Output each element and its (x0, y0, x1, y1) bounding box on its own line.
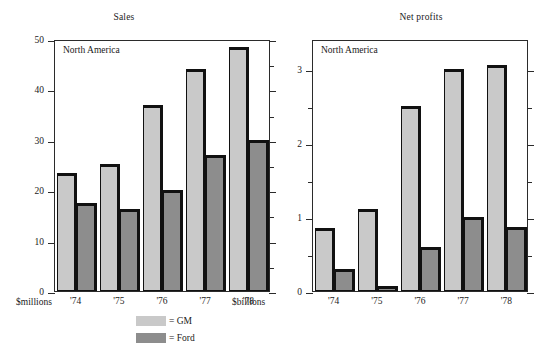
x-tick-label: '75 (355, 296, 398, 306)
chart-title-net-profits: Net profits (286, 12, 546, 22)
y-tick-label: 50 (35, 35, 45, 45)
y-tick-major (269, 293, 276, 294)
x-tick-label: '77 (442, 296, 485, 306)
bar-group (141, 41, 184, 291)
bar-gm-78 (487, 65, 507, 291)
y-tick-major (48, 293, 55, 294)
panel-net-profits: Net profits North America 0123 '74'75'76… (276, 0, 546, 359)
y-tick-minor (308, 108, 313, 109)
legend-swatch-gm (136, 316, 166, 326)
bar-group (55, 41, 98, 291)
bar-ford-78 (249, 140, 269, 291)
bar-ford-77 (464, 217, 484, 291)
bars-container-net-profits (313, 41, 527, 291)
y-tick-label: 1 (297, 213, 302, 223)
y-tick-minor (269, 117, 274, 118)
x-tick-label: '74 (54, 296, 97, 306)
bar-group (443, 41, 486, 291)
legend: = GM = Ford (136, 313, 195, 347)
y-tick-major (269, 142, 276, 143)
y-tick-major (527, 145, 534, 146)
bar-gm-74 (57, 173, 77, 291)
bar-group (486, 41, 529, 291)
x-tick-label: '77 (184, 296, 227, 306)
y-tick-label: 2 (297, 139, 302, 149)
y-tick-major (269, 243, 276, 244)
y-tick-major (48, 142, 55, 143)
bar-gm-76 (401, 106, 421, 291)
y-tick-major (269, 192, 276, 193)
y-tick-major (527, 71, 534, 72)
legend-label-gm: = GM (169, 316, 192, 326)
unit-label-net-profits: $billions (232, 297, 265, 307)
bar-group (185, 41, 228, 291)
bar-gm-77 (186, 69, 206, 291)
y-tick-minor (527, 182, 532, 183)
y-tick-major (306, 293, 313, 294)
x-tick-label: '75 (97, 296, 140, 306)
x-tick-label: '74 (312, 296, 355, 306)
y-tick-major (527, 219, 534, 220)
bar-gm-78 (229, 47, 249, 291)
y-tick-label: 3 (297, 65, 302, 75)
bar-group (356, 41, 399, 291)
bars-container-sales (55, 41, 269, 291)
y-tick-minor (269, 268, 274, 269)
bar-group (399, 41, 442, 291)
bar-ford-74 (335, 269, 355, 291)
x-tick-label: '76 (140, 296, 183, 306)
plot-area-sales: North America (54, 40, 270, 292)
y-tick-major (48, 243, 55, 244)
plot-area-net-profits: North America (312, 40, 528, 292)
y-tick-label: 20 (35, 186, 45, 196)
y-tick-minor (527, 256, 532, 257)
y-tick-label: 30 (35, 136, 45, 146)
bar-gm-74 (315, 228, 335, 291)
legend-item-gm: = GM (136, 313, 195, 328)
bar-ford-75 (120, 209, 140, 291)
bar-ford-78 (507, 227, 527, 291)
y-tick-minor (269, 167, 274, 168)
bar-ford-76 (421, 247, 441, 291)
y-tick-minor (269, 66, 274, 67)
y-tick-major (48, 91, 55, 92)
x-tick-label: '76 (398, 296, 441, 306)
y-tick-minor (308, 182, 313, 183)
bar-group (98, 41, 141, 291)
y-tick-label: 10 (35, 237, 45, 247)
legend-label-ford: = Ford (169, 333, 195, 343)
x-tick-label: '78 (485, 296, 528, 306)
bar-chart-figure: Sales North America 01020304050 '74'75'7… (0, 0, 546, 359)
y-tick-minor (269, 217, 274, 218)
y-tick-minor (308, 256, 313, 257)
bar-ford-75 (378, 286, 398, 291)
bar-group (313, 41, 356, 291)
bar-ford-76 (163, 190, 183, 291)
y-tick-major (527, 293, 534, 294)
y-tick-major (306, 145, 313, 146)
bar-gm-76 (143, 105, 163, 291)
bar-gm-77 (444, 69, 464, 291)
y-tick-major (269, 41, 276, 42)
y-tick-major (306, 219, 313, 220)
y-tick-major (306, 71, 313, 72)
bar-group (228, 41, 271, 291)
unit-label-sales: $millions (16, 297, 52, 307)
y-tick-label: 40 (35, 85, 45, 95)
legend-swatch-ford (136, 333, 166, 343)
legend-item-ford: = Ford (136, 330, 195, 345)
y-tick-major (48, 192, 55, 193)
bar-gm-75 (100, 164, 120, 291)
chart-title-sales: Sales (0, 12, 262, 22)
bar-ford-77 (206, 155, 226, 291)
bar-gm-75 (358, 209, 378, 291)
bar-ford-74 (77, 203, 97, 291)
y-tick-major (48, 41, 55, 42)
y-tick-minor (527, 108, 532, 109)
y-tick-label: 0 (297, 287, 302, 297)
y-tick-label: 0 (39, 287, 44, 297)
y-tick-major (269, 91, 276, 92)
